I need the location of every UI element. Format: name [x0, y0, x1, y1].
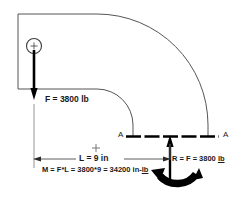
reaction-force-text: R = F = 3800	[172, 154, 218, 163]
reaction-force-label: R = F = 3800 lb	[172, 155, 225, 163]
section-label-right: A	[223, 131, 228, 139]
engineering-diagram: F = 3800 lb L = 9 in M = F*L = 3800*9 = …	[0, 0, 239, 199]
moment-equation-text: M = F*L = 3800*9 = 34200 in-	[42, 165, 142, 174]
reaction-unit-text: lb	[218, 154, 225, 163]
pipe-outer-arc	[97, 14, 208, 125]
moment-equation-label: M = F*L = 3800*9 = 34200 in-lb	[42, 166, 148, 174]
curved-moment-arrow-icon	[151, 168, 203, 184]
section-label-left: A	[118, 131, 123, 139]
pipe-inner-arc	[97, 89, 133, 125]
moment-unit-text: lb	[142, 165, 149, 174]
length-dimension-label: L = 9 in	[79, 154, 108, 163]
applied-force-label: F = 3800 lb	[45, 95, 89, 104]
down-arrow-icon	[30, 50, 37, 100]
pipe-outline	[18, 14, 208, 136]
crosshair-icon	[92, 144, 100, 152]
